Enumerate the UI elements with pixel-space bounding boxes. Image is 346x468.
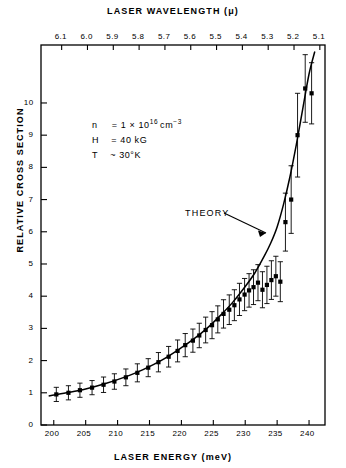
data-point-marker [309, 91, 313, 95]
x2-tick-label-5.4: 5.4 [235, 32, 247, 41]
annotation-field: H = 40 kG [92, 133, 182, 148]
x2-tick-label-5.2: 5.2 [287, 32, 299, 41]
y-tick-label-2: 2 [28, 356, 33, 365]
data-point-marker [278, 280, 282, 284]
temperature-equals: ~ [110, 150, 116, 160]
x2-tick-label-5.5: 5.5 [210, 32, 222, 41]
y-tick-label-6: 6 [28, 227, 33, 236]
x-tick-label-220: 220 [172, 429, 187, 438]
field-symbol: H [92, 135, 99, 145]
x2-tick-label-5.9: 5.9 [106, 32, 118, 41]
data-point-marker [204, 328, 208, 332]
y-tick-label-9: 9 [28, 130, 33, 139]
data-point-marker [135, 371, 139, 375]
data-point-marker [274, 274, 278, 278]
data-point-marker [124, 375, 128, 379]
theory-label: THEORY [185, 208, 230, 218]
data-point-marker [156, 360, 160, 364]
axes-frame-rect [41, 45, 325, 425]
density-value: 1 × 10 [121, 120, 150, 130]
data-point-marker [78, 388, 82, 392]
data-point-marker [227, 308, 231, 312]
y-axis-ticks [41, 103, 47, 425]
x2-tick-label-5.3: 5.3 [261, 32, 273, 41]
data-point-marker [146, 366, 150, 370]
data-point-marker [289, 197, 293, 201]
x2-tick-label-6.1: 6.1 [55, 32, 67, 41]
data-point-marker [101, 383, 105, 387]
data-point-marker [295, 133, 299, 137]
plot-area [0, 0, 346, 468]
top-axis-ticks [62, 45, 320, 50]
x2-tick-label-6.0: 6.0 [80, 32, 92, 41]
temperature-value: 30°K [119, 150, 141, 160]
y-tick-label-7: 7 [28, 195, 33, 204]
y-tick-label-10: 10 [24, 98, 34, 107]
data-point-marker [54, 392, 58, 396]
x-tick-label-225: 225 [204, 429, 219, 438]
x-tick-label-230: 230 [236, 429, 251, 438]
x-tick-label-215: 215 [140, 429, 155, 438]
x2-tick-label-5.7: 5.7 [158, 32, 170, 41]
y-tick-label-5: 5 [28, 259, 33, 268]
field-equals: = [111, 135, 117, 145]
field-value: 40 kG [120, 135, 147, 145]
data-point-marker [251, 285, 255, 289]
x-tick-label-240: 240 [300, 429, 315, 438]
figure-container: LASER WAVELENGTH (μ) LASER ENERGY (meV) … [0, 0, 346, 468]
annotation-density: n = 1 × 1016cm−3 [92, 114, 182, 133]
data-point-marker [265, 283, 269, 287]
x-tick-label-235: 235 [268, 429, 283, 438]
theory-leader-segment [224, 213, 266, 233]
data-point-marker [191, 339, 195, 343]
x2-tick-label-5.8: 5.8 [132, 32, 144, 41]
theory-leader-line [224, 213, 266, 237]
error-bars [54, 55, 314, 402]
data-point-marker [90, 386, 94, 390]
density-unit: cm [160, 120, 173, 130]
data-point-marker [242, 292, 246, 296]
data-point-marker [237, 297, 241, 301]
data-point-marker [283, 220, 287, 224]
x-tick-label-200: 200 [45, 429, 60, 438]
y-tick-label-8: 8 [28, 162, 33, 171]
density-equals: = [112, 120, 118, 130]
density-unit-exponent: −3 [173, 118, 182, 125]
data-point-marker [260, 288, 264, 292]
axes-frame [41, 45, 325, 425]
data-point-marker [197, 333, 201, 337]
annotation-temperature: T ~ 30°K [92, 148, 182, 163]
x2-tick-label-5.1: 5.1 [313, 32, 325, 41]
data-point-marker [216, 317, 220, 321]
temperature-symbol: T [92, 150, 98, 160]
data-point-marker [256, 281, 260, 285]
density-symbol: n [92, 120, 98, 130]
data-point-marker [247, 288, 251, 292]
data-point-marker [66, 391, 70, 395]
data-point-marker [221, 312, 225, 316]
y-tick-label-1: 1 [28, 388, 33, 397]
data-point-marker [112, 379, 116, 383]
data-point-marker [175, 349, 179, 353]
theory-curve [49, 51, 315, 396]
theory-curve-path [49, 51, 315, 396]
data-point-marker [269, 278, 273, 282]
data-point-marker [210, 323, 214, 327]
data-point-marker [232, 303, 236, 307]
data-point-marker [303, 86, 307, 90]
y-tick-label-3: 3 [28, 323, 33, 332]
x2-tick-label-5.6: 5.6 [184, 32, 196, 41]
y-tick-label-0: 0 [28, 420, 33, 429]
x-tick-label-205: 205 [77, 429, 92, 438]
x-tick-label-210: 210 [109, 429, 124, 438]
data-point-marker [167, 355, 171, 359]
density-exponent: 16 [150, 118, 158, 125]
annotation-block: n = 1 × 1016cm−3 H = 40 kG T ~ 30°K [92, 114, 182, 163]
data-point-marker [183, 343, 187, 347]
y-tick-label-4: 4 [28, 291, 33, 300]
x-axis-ticks [54, 420, 309, 425]
